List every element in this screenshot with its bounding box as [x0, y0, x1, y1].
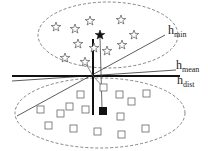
label-h-dist: hdist	[177, 74, 195, 89]
highlighted-square	[99, 107, 107, 115]
label-sub: mean	[182, 65, 199, 74]
label-sub: min	[174, 30, 186, 39]
label-sub: dist	[183, 80, 195, 89]
label-h-mean: hmean	[176, 59, 199, 74]
star-square-connector	[100, 37, 102, 108]
label-h-min: hmin	[168, 24, 186, 39]
star-class-ellipse	[38, 2, 178, 68]
star-markers	[51, 15, 139, 66]
